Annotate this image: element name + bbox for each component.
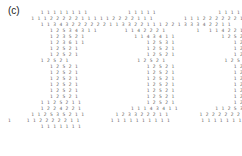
grid-row: 1 1 1 1 1 1 1 1 1 1 1 1 1 1 1 1 1 1 1 1 … (22, 10, 242, 15)
grid-row: 1 2 3 5 2 1 1 1 4 3 4 1 1 1 2 5 2 1 (22, 34, 242, 39)
grid-row: 1 2 2 4 2 2 1 1 1 1 4 3 4 1 1 1 1 2 5 3 … (22, 106, 242, 111)
grid-row: 1 1 3 4 3 2 2 2 2 2 2 1 1 3 3 2 2 1 1 1 … (22, 22, 231, 27)
grid-row: 1 2 5 2 1 1 2 5 2 1 1 2 5 2 1 (22, 52, 242, 57)
grid-row: 1 2 5 2 1 1 2 5 2 1 1 2 5 2 1 (22, 70, 242, 75)
grid-row: 1 2 5 2 1 1 2 5 2 1 1 2 3 6 2 1 (22, 88, 242, 93)
grid-row: 1 1 1 1 1 1 1 (22, 124, 81, 129)
grid-row: 1 2 5 2 1 1 2 5 2 1 1 2 5 2 1 (22, 58, 242, 63)
grid-row: 1 2 5 2 1 1 2 5 2 1 1 2 5 2 1 (22, 46, 242, 51)
grid-row: 1 2 5 2 1 1 2 5 2 1 1 2 5 2 1 (22, 64, 242, 69)
panel-label: (c) (8, 5, 20, 16)
grid-row: 1 1 2 5 3 5 2 1 1 1 2 3 3 2 2 2 1 1 1 2 … (22, 112, 242, 117)
grid-row: 1 2 5 3 4 3 1 1 1 1 4 2 2 2 1 1 1 1 4 2 … (22, 28, 242, 33)
grid-row: 1 2 5 2 1 1 2 5 2 1 1 2 3 6 2 1 (22, 94, 242, 99)
grid-row: 1 1 2 5 2 1 1 1 2 5 2 1 1 2 2 7 2 1 (22, 100, 242, 105)
grid-row: 1 1 1 2 2 2 2 2 1 1 1 1 1 1 1 1 1 1 1 1 … (8, 118, 242, 123)
grid-row: 1 2 3 6 1 1 1 2 5 3 1 1 2 5 3 1 (22, 40, 242, 45)
grid-row: 1 (22, 4, 242, 9)
grid-row: 1 1 1 2 2 2 2 2 1 1 1 1 1 2 2 2 2 1 1 1 … (22, 16, 242, 21)
grid-row: 1 2 5 2 1 1 2 5 2 1 1 2 3 6 2 1 (22, 82, 242, 87)
grid-row: 1 2 5 2 1 1 2 5 2 1 1 2 3 5 1 1 (22, 76, 242, 81)
